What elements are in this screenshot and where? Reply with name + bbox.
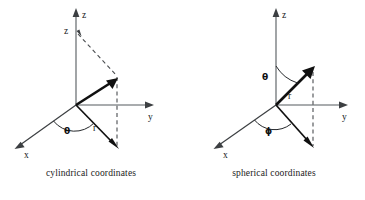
radius-label: r — [288, 91, 292, 101]
y-axis-label: y — [148, 112, 153, 122]
spherical-diagram-svg: z y x θ r ϕ — [183, 0, 365, 168]
cylindrical-diagram-svg: z z y x θ r — [0, 0, 182, 168]
theta-angle-arc — [54, 121, 95, 131]
phi-angle-label: ϕ — [265, 126, 272, 136]
cylindrical-caption: cylindrical coordinates — [0, 168, 182, 178]
position-vector-line — [76, 82, 112, 105]
height-coordinate-label: z — [64, 26, 68, 36]
y-axis-label: y — [342, 112, 347, 122]
theta-angle-label: θ — [64, 126, 70, 136]
spherical-caption: spherical coordinates — [183, 168, 365, 178]
y-axis-arrowhead — [145, 102, 154, 109]
radial-projection-line — [276, 105, 308, 141]
radius-label: r — [93, 123, 97, 133]
theta-angle-label: θ — [262, 72, 268, 82]
coordinate-systems-figure: z z y x θ r cylindrical coordinates — [0, 0, 365, 200]
z-axis-arrowhead — [73, 8, 80, 17]
theta-angle-arc — [276, 66, 298, 83]
z-axis-label: z — [82, 10, 86, 20]
x-axis-label: x — [223, 150, 228, 160]
y-axis-arrowhead — [339, 102, 348, 109]
x-axis-line — [219, 105, 276, 145]
height-projection-dashed-line — [78, 34, 117, 76]
x-axis-line — [20, 105, 76, 145]
phi-angle-arc — [255, 120, 292, 130]
z-axis-arrowhead — [273, 8, 280, 17]
x-axis-label: x — [24, 150, 29, 160]
cylindrical-coordinates-panel: z z y x θ r cylindrical coordinates — [0, 0, 182, 200]
z-axis-label: z — [282, 10, 286, 20]
spherical-coordinates-panel: z y x θ r ϕ spherical coordinates — [183, 0, 365, 200]
position-vector-line — [276, 73, 308, 105]
